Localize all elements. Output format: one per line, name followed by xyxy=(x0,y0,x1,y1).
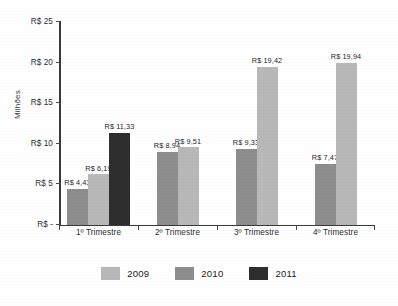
bar-2010[interactable]: R$ 4,43 xyxy=(67,189,88,225)
bar-2009[interactable]: R$ 19,42 xyxy=(257,67,278,225)
chart-legend: 200920102011 xyxy=(0,267,398,280)
bar-2009[interactable]: R$ 6,19 xyxy=(88,174,109,224)
legend-label: 2010 xyxy=(201,268,223,279)
bar-value-label: R$ 19,94 xyxy=(331,52,361,61)
y-axis-tick-label: R$ 25 xyxy=(31,17,53,26)
bar-slot: R$ 4,43 xyxy=(67,22,88,225)
x-axis-tick xyxy=(59,226,60,230)
y-axis-tick xyxy=(56,224,60,225)
bar-2009[interactable]: R$ 9,51 xyxy=(178,147,199,224)
bar-value-label: R$ 11,33 xyxy=(105,122,135,131)
bar-slot: R$ 11,33 xyxy=(109,22,130,225)
y-axis-tick-label: R$ - xyxy=(37,220,53,229)
bar-group: R$ 4,43R$ 6,19R$ 11,33 xyxy=(67,22,130,225)
category-label: 3º Trimestre xyxy=(234,228,279,237)
bar-2009[interactable]: R$ 19,94 xyxy=(336,63,357,225)
bar-group: R$ 7,47R$ 19,94 xyxy=(315,22,357,225)
y-axis-tick xyxy=(56,21,60,22)
y-axis-tick-label: R$ 10 xyxy=(31,138,53,147)
bar-group: R$ 9,33R$ 19,42 xyxy=(236,22,278,225)
y-axis-tick-label: R$ 15 xyxy=(31,98,53,107)
plot-area: R$ -R$ 5R$ 10R$ 15R$ 20R$ 25 R$ 4,43R$ 6… xyxy=(59,21,375,226)
bar-value-label: R$ 4,43 xyxy=(64,178,90,187)
bar-slot: R$ 19,42 xyxy=(257,22,278,225)
legend-swatch xyxy=(101,267,120,280)
legend-item-2009[interactable]: 2009 xyxy=(101,267,149,280)
bar-chart: Milhões R$ -R$ 5R$ 10R$ 15R$ 20R$ 25 R$ … xyxy=(0,0,398,306)
y-axis-line xyxy=(59,21,61,226)
bar-slot: R$ 9,33 xyxy=(236,22,257,225)
legend-label: 2011 xyxy=(275,268,296,279)
bar-2010[interactable]: R$ 7,47 xyxy=(315,164,336,225)
y-axis-tick xyxy=(56,62,60,63)
bar-group: R$ 8,94R$ 9,51 xyxy=(157,22,199,225)
y-axis-tick xyxy=(56,183,60,184)
bar-slot: R$ 8,94 xyxy=(157,22,178,225)
bar-value-label: R$ 9,51 xyxy=(175,137,201,146)
bar-value-label: R$ 9,33 xyxy=(233,138,259,147)
category-label: 4º Trimestre xyxy=(313,228,358,237)
y-axis-tick xyxy=(56,143,60,144)
y-axis-tick-label: R$ 5 xyxy=(35,179,53,188)
bar-2010[interactable]: R$ 8,94 xyxy=(157,152,178,225)
bar-slot: R$ 9,51 xyxy=(178,22,199,225)
y-axis-title: Milhões xyxy=(13,49,22,119)
category-label: 1º Trimestre xyxy=(76,228,121,237)
bar-2011[interactable]: R$ 11,33 xyxy=(109,133,130,225)
legend-item-2011[interactable]: 2011 xyxy=(249,267,296,280)
legend-swatch xyxy=(175,267,194,280)
legend-label: 2009 xyxy=(127,268,149,279)
x-axis-tick xyxy=(296,226,297,230)
x-axis-tick xyxy=(138,226,139,230)
legend-item-2010[interactable]: 2010 xyxy=(175,267,223,280)
x-axis-tick xyxy=(217,226,218,230)
x-axis-tick xyxy=(374,226,375,230)
bar-value-label: R$ 19,42 xyxy=(252,56,282,65)
legend-swatch xyxy=(249,267,268,280)
bar-value-label: R$ 7,47 xyxy=(312,153,338,162)
y-axis-tick-label: R$ 20 xyxy=(31,57,53,66)
bar-2010[interactable]: R$ 9,33 xyxy=(236,149,257,225)
bar-slot: R$ 19,94 xyxy=(336,22,357,225)
y-axis-tick xyxy=(56,102,60,103)
category-label: 2º Trimestre xyxy=(155,228,200,237)
bar-value-label: R$ 6,19 xyxy=(85,164,111,173)
